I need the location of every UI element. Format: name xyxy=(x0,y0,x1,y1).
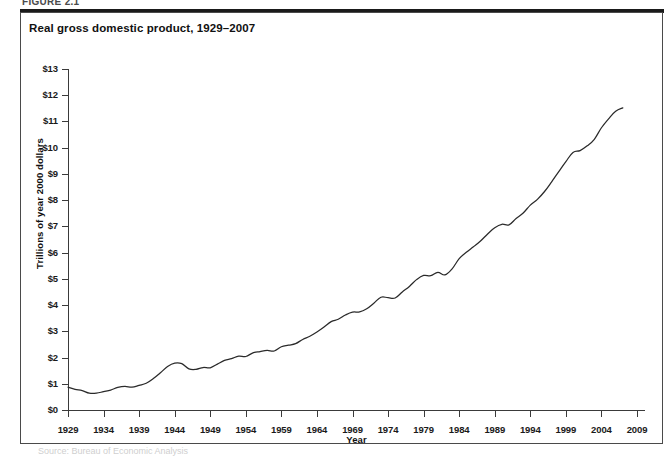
figure-source-note: Source: Bureau of Economic Analysis xyxy=(38,446,188,456)
real-gdp-line-path xyxy=(68,108,623,394)
